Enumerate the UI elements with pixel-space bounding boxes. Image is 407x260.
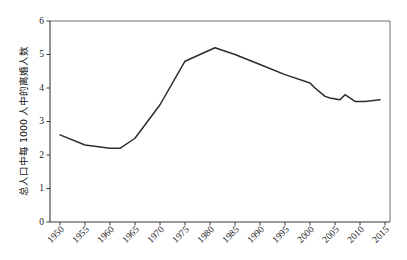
x-tick-label: 2005	[320, 224, 341, 245]
y-tick-label: 0	[39, 217, 44, 227]
data-series-group	[60, 48, 380, 149]
y-tick-label: 4	[39, 83, 44, 93]
plot-frame	[50, 21, 390, 222]
y-tick-label: 6	[39, 16, 44, 26]
y-tick-label: 5	[39, 49, 44, 59]
x-tick-label: 1955	[70, 224, 91, 245]
x-tick-label: 1990	[245, 224, 266, 245]
y-tick-label: 3	[39, 116, 44, 126]
x-tick-label: 1950	[45, 224, 66, 245]
y-axis-title: 总人口中每 1000 人中的离婚人数	[18, 46, 29, 196]
x-tick-label: 1960	[95, 224, 116, 245]
y-axis-ticks: 0123456	[39, 16, 50, 227]
x-tick-label: 1975	[170, 224, 191, 245]
x-axis-ticks: 1950195519601965197019751980198519901995…	[45, 222, 391, 245]
x-tick-label: 1995	[270, 224, 291, 245]
x-tick-label: 2000	[295, 224, 316, 245]
x-tick-label: 1980	[195, 224, 216, 245]
y-tick-label: 2	[39, 150, 44, 160]
y-tick-label: 1	[39, 183, 44, 193]
line-chart: 0123456 19501955196019651970197519801985…	[0, 0, 407, 260]
data-line-divorce-rate	[60, 48, 380, 149]
chart-figure: 0123456 19501955196019651970197519801985…	[0, 0, 407, 260]
x-tick-label: 1965	[120, 224, 141, 245]
x-tick-label: 2010	[345, 224, 366, 245]
x-tick-label: 1970	[145, 224, 166, 245]
x-tick-label: 1985	[220, 224, 241, 245]
x-tick-label: 2015	[370, 224, 391, 245]
